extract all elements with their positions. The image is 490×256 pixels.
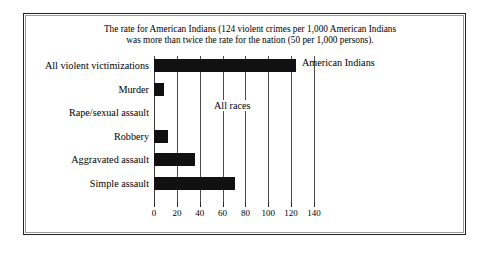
gridline-140	[314, 56, 315, 202]
chart-title-line-1: The rate for American Indians (124 viole…	[70, 24, 430, 35]
tick-140	[314, 202, 315, 207]
tick-120	[291, 202, 292, 207]
chart-title-line-2: was more than twice the rate for the nat…	[70, 35, 430, 46]
annotation-american-indians: American Indians	[302, 57, 375, 68]
annotation-all-races: All races	[212, 100, 253, 111]
x-tick-label-140: 140	[301, 208, 327, 218]
gridline-100	[268, 56, 269, 202]
bar-simple-assault	[154, 177, 235, 190]
category-label-all-violent-victimizations: All violent victimizations	[45, 56, 149, 75]
chart-figure: The rate for American Indians (124 viole…	[0, 0, 490, 256]
bar-murder	[154, 83, 164, 96]
category-label-murder: Murder	[118, 80, 149, 99]
tick-40	[200, 202, 201, 207]
tick-20	[177, 202, 178, 207]
bar-all-violent-victimizations	[154, 59, 296, 72]
tick-100	[268, 202, 269, 207]
category-label-rape-sexual-assault: Rape/sexual assault	[69, 103, 149, 122]
bar-robbery	[154, 130, 168, 143]
tick-60	[223, 202, 224, 207]
tick-80	[245, 202, 246, 207]
chart-title: The rate for American Indians (124 viole…	[70, 24, 430, 46]
tick-0	[154, 202, 155, 207]
bar-aggravated-assault	[154, 153, 195, 166]
category-label-simple-assault: Simple assault	[90, 174, 149, 193]
gridline-80	[245, 56, 246, 202]
gridline-120	[291, 56, 292, 202]
plot-area: 0 20 40 60 80 100 120 140 All violent vi…	[154, 56, 314, 202]
category-label-aggravated-assault: Aggravated assault	[71, 150, 149, 169]
category-label-robbery: Robbery	[114, 127, 149, 146]
